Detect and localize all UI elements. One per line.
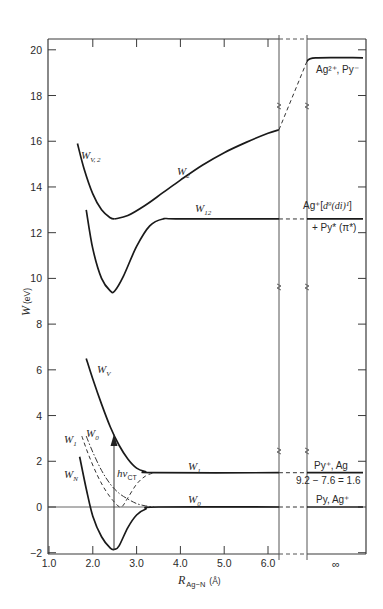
state-ag-d9: Ag⁺[d⁹(di)¹] [303, 200, 352, 212]
potential-energy-chart: −2024681012141618201.02.03.04.05.06.0 W(… [0, 0, 383, 609]
x-tick-label: 1.0 [42, 557, 57, 569]
y-tick-label: 20 [30, 44, 42, 56]
y-tick-label: 6 [36, 364, 42, 376]
y-tick-label: 10 [30, 272, 42, 284]
label-w-0-right: W0 [188, 493, 201, 508]
axis-tick-labels: −2024681012141618201.02.03.04.05.06.0 [30, 44, 275, 569]
x-tick-label: 4.0 [173, 557, 188, 569]
label-w-n: WN [64, 468, 78, 483]
curve-w-v [86, 358, 279, 472]
y-axis-title: W(eV) [19, 288, 33, 316]
state-py-plus-ag: Py⁺, Ag [314, 460, 348, 471]
curve-w-12 [86, 210, 279, 293]
label-w-12: W12 [195, 202, 212, 217]
y-tick-label: 16 [30, 135, 42, 147]
y-tick-label: 0 [36, 501, 42, 513]
break-squiggles [277, 103, 309, 454]
y-tick-label: 14 [30, 181, 42, 193]
x-tick-label: 3.0 [129, 557, 144, 569]
label-w-v2: WV, 2 [81, 149, 101, 164]
x-tick-label: 5.0 [217, 557, 232, 569]
state-ag2-py: Ag²⁺, Py⁻ [316, 64, 359, 75]
y-tick-label: 4 [36, 410, 42, 422]
curve-w-2-asymptote- [307, 58, 363, 62]
y-tick-label: 12 [30, 227, 42, 239]
x-tick-label: 2.0 [85, 557, 100, 569]
y-tick-label: 2 [36, 455, 42, 467]
label-hv-ct: hνCT [117, 467, 137, 481]
x-axis-title: RAg−N(Å) [177, 573, 221, 589]
state-py-ag-plus: Py, Ag⁺ [316, 494, 349, 505]
state-py-star: + Py* (π*) [312, 222, 356, 233]
hv-ct-arrow [111, 434, 118, 550]
y-tick-label: −2 [30, 547, 42, 559]
y-tick-label: 18 [30, 90, 42, 102]
label-w-1-left: W1 [64, 433, 77, 448]
y-tick-label: 8 [36, 318, 42, 330]
curve-w-2-to- [279, 61, 307, 130]
label-w-v: WV [97, 363, 111, 378]
curve-w-n [80, 457, 279, 550]
state-equation: 9.2 − 7.6 = 1.6 [296, 475, 361, 486]
x-tick-label: 6.0 [261, 557, 276, 569]
infinity-label: ∞ [332, 558, 340, 570]
